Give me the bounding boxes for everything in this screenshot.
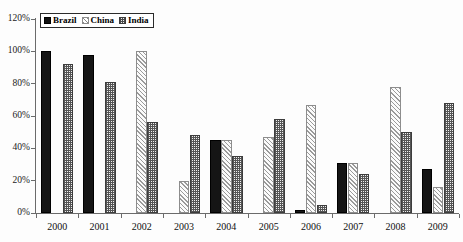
- bar-group: [121, 19, 163, 213]
- x-axis-tick: [417, 214, 418, 218]
- bar-china-2005: [263, 137, 274, 213]
- legend-label: China: [91, 16, 115, 25]
- bar-india-2008: [401, 132, 412, 213]
- bar-india-2005: [274, 119, 285, 213]
- bar-brazil-2007: [337, 163, 348, 213]
- bar-china-2006: [306, 105, 317, 213]
- y-axis-tick-label: 40%: [0, 143, 30, 152]
- bar-group: [163, 19, 205, 213]
- legend-entry-china: China: [82, 16, 115, 25]
- chart-legend: BrazilChinaIndia: [40, 13, 154, 28]
- x-axis-tick: [374, 214, 375, 218]
- x-axis-tick: [163, 214, 164, 218]
- y-axis-tick-label: 0%: [0, 208, 30, 217]
- bar-india-2006: [317, 205, 328, 213]
- legend-swatch-brazil-icon: [44, 17, 51, 24]
- bar-group: [248, 19, 290, 213]
- y-axis-tick-label: 120%: [0, 14, 30, 23]
- x-axis-tick: [36, 214, 37, 218]
- bar-india-2003: [190, 135, 201, 213]
- bar-group: [332, 19, 374, 213]
- bar-china-2008: [390, 87, 401, 213]
- legend-swatch-india-icon: [119, 17, 126, 24]
- bar-india-2002: [147, 122, 158, 213]
- y-axis-tick-label: 60%: [0, 111, 30, 120]
- bar-china-2003: [179, 181, 190, 213]
- bar-china-2009: [433, 187, 444, 213]
- y-axis-tick-label: 20%: [0, 176, 30, 185]
- bar-brazil-2004: [210, 140, 221, 213]
- bar-chart: 0%20%40%60%80%100%120% 20002001200220032…: [0, 0, 463, 242]
- bar-brazil-2009: [422, 169, 433, 213]
- legend-label: India: [128, 16, 149, 25]
- x-axis-tick: [290, 214, 291, 218]
- bar-brazil-2001: [83, 55, 94, 213]
- bar-group: [78, 19, 120, 213]
- bar-india-2007: [359, 174, 370, 213]
- x-axis-tick: [459, 214, 460, 218]
- bar-china-2004: [221, 140, 232, 213]
- legend-entry-brazil: Brazil: [44, 16, 77, 25]
- legend-swatch-china-icon: [82, 17, 89, 24]
- bar-india-2001: [105, 82, 116, 213]
- bar-india-2009: [444, 103, 455, 213]
- bar-group: [374, 19, 416, 213]
- bar-china-2007: [348, 163, 359, 213]
- x-axis-tick: [205, 214, 206, 218]
- bar-group: [417, 19, 459, 213]
- x-axis-tick: [78, 214, 79, 218]
- legend-label: Brazil: [53, 16, 77, 25]
- plot-area: [36, 19, 459, 213]
- x-axis-tick: [332, 214, 333, 218]
- bar-china-2002: [136, 51, 147, 213]
- x-axis-tick: [248, 214, 249, 218]
- bar-group: [205, 19, 247, 213]
- bar-india-2000: [63, 64, 74, 213]
- y-axis-tick-label: 100%: [0, 46, 30, 55]
- bar-group: [290, 19, 332, 213]
- bar-brazil-2006: [295, 210, 306, 213]
- bar-india-2004: [232, 156, 243, 213]
- bar-brazil-2000: [41, 51, 52, 213]
- legend-entry-india: India: [119, 16, 149, 25]
- x-axis-tick: [121, 214, 122, 218]
- bar-group: [36, 19, 78, 213]
- y-axis-tick-label: 80%: [0, 79, 30, 88]
- x-axis-tick-label: 2009: [408, 221, 463, 232]
